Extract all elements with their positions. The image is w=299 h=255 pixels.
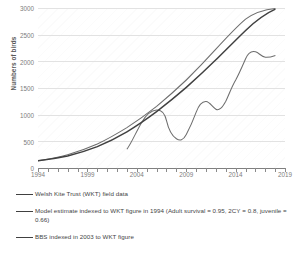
x-tick-mark (117, 168, 118, 172)
y-tick-label-2500: 2500 (4, 32, 34, 39)
x-tick-label-2014: 2014 (221, 171, 251, 178)
legend-label-model-estimate: Model estimate indexed to WKT figure in … (35, 207, 291, 224)
series-line-model-estimate (38, 9, 275, 161)
legend-item-wkt-field-data: Welsh Kite Trust (WKT) field data (16, 190, 291, 198)
y-tick-label-1000: 1000 (4, 112, 34, 119)
x-tick-label-1999: 1999 (72, 171, 102, 178)
x-tick-mark (68, 168, 69, 172)
y-tick-label-2000: 2000 (4, 59, 34, 66)
legend-line-swatch-icon (16, 237, 33, 238)
y-tick-label-3000: 3000 (4, 5, 34, 12)
legend-label-bbs-indexed: BBS indexed in 2003 to WKT figure (35, 233, 291, 241)
x-tick-mark (58, 168, 59, 172)
series-line-bbs (127, 51, 276, 149)
legend-line-swatch-icon (16, 211, 33, 212)
y-tick-label-500: 500 (4, 139, 34, 146)
legend-item-model-estimate: Model estimate indexed to WKT figure in … (16, 207, 291, 224)
x-tick-mark (265, 168, 266, 172)
y-tick-label-1500: 1500 (4, 85, 34, 92)
legend-label-wkt-field-data: Welsh Kite Trust (WKT) field data (35, 190, 291, 198)
x-tick-label-1994: 1994 (23, 171, 53, 178)
series-layer (38, 8, 285, 168)
legend-item-bbs-indexed: BBS indexed in 2003 to WKT figure (16, 233, 291, 241)
bird-population-line-chart: Numbers of birds 3000 2500 2000 1500 100… (0, 0, 299, 255)
series-line-wkt-field-data (38, 9, 275, 161)
x-tick-mark (157, 168, 158, 172)
x-tick-mark (206, 168, 207, 172)
x-tick-label-2004: 2004 (122, 171, 152, 178)
x-tick-mark (216, 168, 217, 172)
legend-line-swatch-icon (16, 194, 33, 195)
x-tick-label-2019: 2019 (270, 171, 299, 178)
x-tick-mark (255, 168, 256, 172)
x-tick-mark (166, 168, 167, 172)
x-tick-label-2009: 2009 (171, 171, 201, 178)
x-axis-line (38, 168, 285, 169)
chart-legend: Welsh Kite Trust (WKT) field data Model … (16, 190, 291, 251)
x-tick-mark (107, 168, 108, 172)
